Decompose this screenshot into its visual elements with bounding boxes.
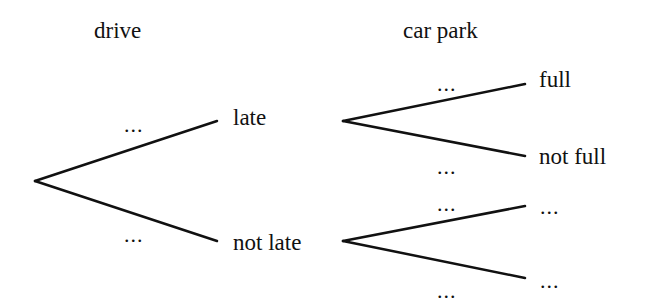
branch-not-late-lower [343,241,525,278]
branch-late-not-full [343,121,525,156]
outcome-late: late [233,106,266,129]
outcome-not-full: not full [539,145,606,168]
prob-late-not-full: ... [437,156,457,178]
tree-diagram: drive car park ... late ... not late ...… [0,0,645,301]
branch-not-late-upper [343,206,525,241]
prob-not-late: ... [124,224,144,246]
outcome-not-late: not late [233,231,301,254]
prob-late-full: ... [437,73,457,95]
prob-not-late-lower: ... [437,280,457,301]
header-car-park: car park [403,19,478,42]
prob-late: ... [124,114,144,136]
outcome-not-late-upper: ... [540,196,560,218]
outcome-not-late-lower: ... [540,270,560,292]
outcome-full: full [539,68,571,91]
header-drive: drive [94,19,141,42]
branch-late-full [343,84,525,121]
prob-not-late-upper: ... [437,193,457,215]
